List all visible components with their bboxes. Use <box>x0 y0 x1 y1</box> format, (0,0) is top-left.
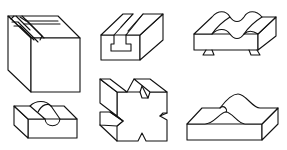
block-with-wavy-top-and-dovetail-base <box>194 12 276 55</box>
slab-with-curved-hump <box>187 94 278 140</box>
block-with-semicircular-groove <box>14 102 77 139</box>
cross-shaped-block-with-v-notches <box>100 79 167 141</box>
cube-with-stepped-grooves <box>8 16 80 92</box>
shapes-diagram <box>0 0 287 150</box>
block-with-t-slot <box>101 14 163 60</box>
